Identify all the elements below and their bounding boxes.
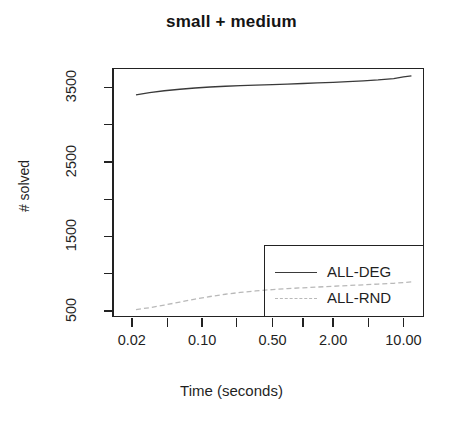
legend-label-all-rnd: ALL-RND (327, 289, 391, 306)
legend-entry-all-deg: ALL-DEG (265, 260, 425, 286)
x-axis-label: Time (seconds) (0, 382, 463, 399)
x-tick-mark (236, 318, 237, 327)
y-tick-label: 2500 (63, 138, 79, 184)
y-tick-mark (104, 124, 112, 125)
x-tick-mark (131, 318, 132, 327)
y-tick-mark (104, 310, 112, 311)
x-tick-mark (302, 318, 303, 327)
x-tick-mark (332, 318, 333, 327)
x-tick-mark (201, 318, 202, 327)
x-tick-label: 0.10 (172, 332, 232, 348)
y-tick-label: 500 (63, 287, 79, 333)
x-tick-mark (272, 318, 273, 327)
chart-figure: small + medium # solved 500150025003500 … (0, 0, 463, 435)
x-tick-label: 0.02 (102, 332, 162, 348)
legend-entry-all-rnd: ALL-RND (265, 286, 425, 312)
y-tick-label: 1500 (63, 212, 79, 258)
legend-box: ALL-DEG ALL-RND (264, 245, 424, 317)
y-tick-mark (104, 273, 112, 274)
y-axis-label: # solved (16, 136, 32, 236)
legend-line-swatch-solid (275, 272, 317, 275)
y-tick-mark (104, 161, 112, 162)
y-tick-mark (104, 199, 112, 200)
x-tick-label: 10.00 (373, 332, 433, 348)
legend-line-swatch-dashed (275, 298, 317, 301)
x-tick-label: 2.00 (303, 332, 363, 348)
chart-title: small + medium (0, 12, 463, 32)
y-tick-mark (104, 87, 112, 88)
x-tick-label: 0.50 (243, 332, 303, 348)
x-tick-mark (368, 318, 369, 327)
x-tick-mark (167, 318, 168, 327)
x-tick-mark (403, 318, 404, 327)
y-tick-label: 3500 (63, 63, 79, 109)
y-tick-mark (104, 236, 112, 237)
series-line-all-deg (136, 76, 411, 95)
legend-label-all-deg: ALL-DEG (327, 263, 391, 280)
